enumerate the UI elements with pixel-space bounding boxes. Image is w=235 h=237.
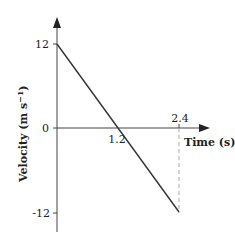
x-label-2-4: 2.4 [171,112,189,125]
velocity-time-chart: 12 0 -12 1.2 2.4 Time (s) Velocity (m s−… [0,0,235,237]
y-label-12: 12 [35,38,49,51]
y-axis-arrow-icon [53,17,61,28]
y-label-0: 0 [42,122,49,135]
y-label-neg12: -12 [32,207,50,220]
x-axis-label: Time (s) [184,136,235,149]
y-axis-label-close: ) [17,85,30,90]
x-label-1-2: 1.2 [108,133,126,146]
y-axis-label-main: Velocity (m s [17,103,30,183]
x-axis-arrow-icon [199,124,210,132]
svg-text:Velocity (m s−1): Velocity (m s−1) [15,85,30,183]
y-axis-label-sup: −1 [15,91,25,103]
y-axis-label: Velocity (m s−1) [15,85,30,183]
